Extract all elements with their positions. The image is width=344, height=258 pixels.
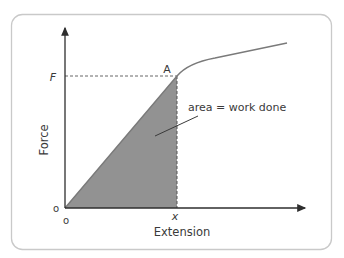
origin-x-label: o [63, 215, 69, 226]
x-tick-label-x: x [171, 210, 179, 223]
y-axis-label: Force [37, 124, 51, 155]
force-extension-diagram: F A area = work done o o x Extension For… [0, 0, 344, 258]
y-tick-label-F: F [50, 71, 57, 84]
x-axis-label: Extension [154, 225, 210, 239]
area-label: area = work done [188, 101, 287, 114]
point-label-A: A [163, 63, 171, 76]
origin-y-label: o [53, 203, 59, 214]
